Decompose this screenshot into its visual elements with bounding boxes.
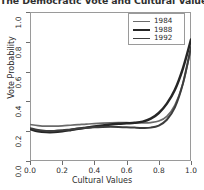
x-tick-label: 0.0 bbox=[18, 166, 42, 175]
x-tick-mark bbox=[127, 161, 128, 165]
y-tick-mark bbox=[26, 72, 30, 73]
x-tick-mark bbox=[159, 161, 160, 165]
x-tick-mark bbox=[94, 161, 95, 165]
x-tick-label: 0.8 bbox=[147, 166, 171, 175]
x-axis-label: Cultural Values bbox=[0, 176, 204, 185]
legend: 198419881992 bbox=[128, 13, 185, 45]
legend-swatch-icon bbox=[133, 38, 150, 39]
y-tick-mark bbox=[26, 12, 30, 13]
x-tick-label: 1.0 bbox=[179, 166, 203, 175]
chart-container: The Democratic Vote and Cultural Values … bbox=[0, 0, 204, 190]
x-tick-mark bbox=[30, 161, 31, 165]
legend-swatch-icon bbox=[133, 29, 150, 31]
legend-swatch-icon bbox=[133, 21, 150, 22]
series-line-1992 bbox=[30, 47, 191, 131]
y-tick-mark bbox=[26, 131, 30, 132]
legend-item-1992[interactable]: 1992 bbox=[132, 34, 181, 43]
x-tick-mark bbox=[62, 161, 63, 165]
page-title: The Democratic Vote and Cultural Values bbox=[0, 0, 204, 6]
series-group bbox=[30, 40, 191, 133]
y-tick-mark bbox=[26, 42, 30, 43]
x-tick-label: 0.6 bbox=[115, 166, 139, 175]
x-tick-mark bbox=[191, 161, 192, 165]
x-tick-label: 0.2 bbox=[50, 166, 74, 175]
y-axis-label: Vote Probability bbox=[7, 24, 16, 112]
y-tick-label: 0.2 bbox=[14, 131, 23, 153]
legend-label: 1992 bbox=[154, 34, 172, 42]
x-tick-label: 0.4 bbox=[82, 166, 106, 175]
y-tick-mark bbox=[26, 101, 30, 102]
series-line-1984 bbox=[30, 49, 191, 127]
